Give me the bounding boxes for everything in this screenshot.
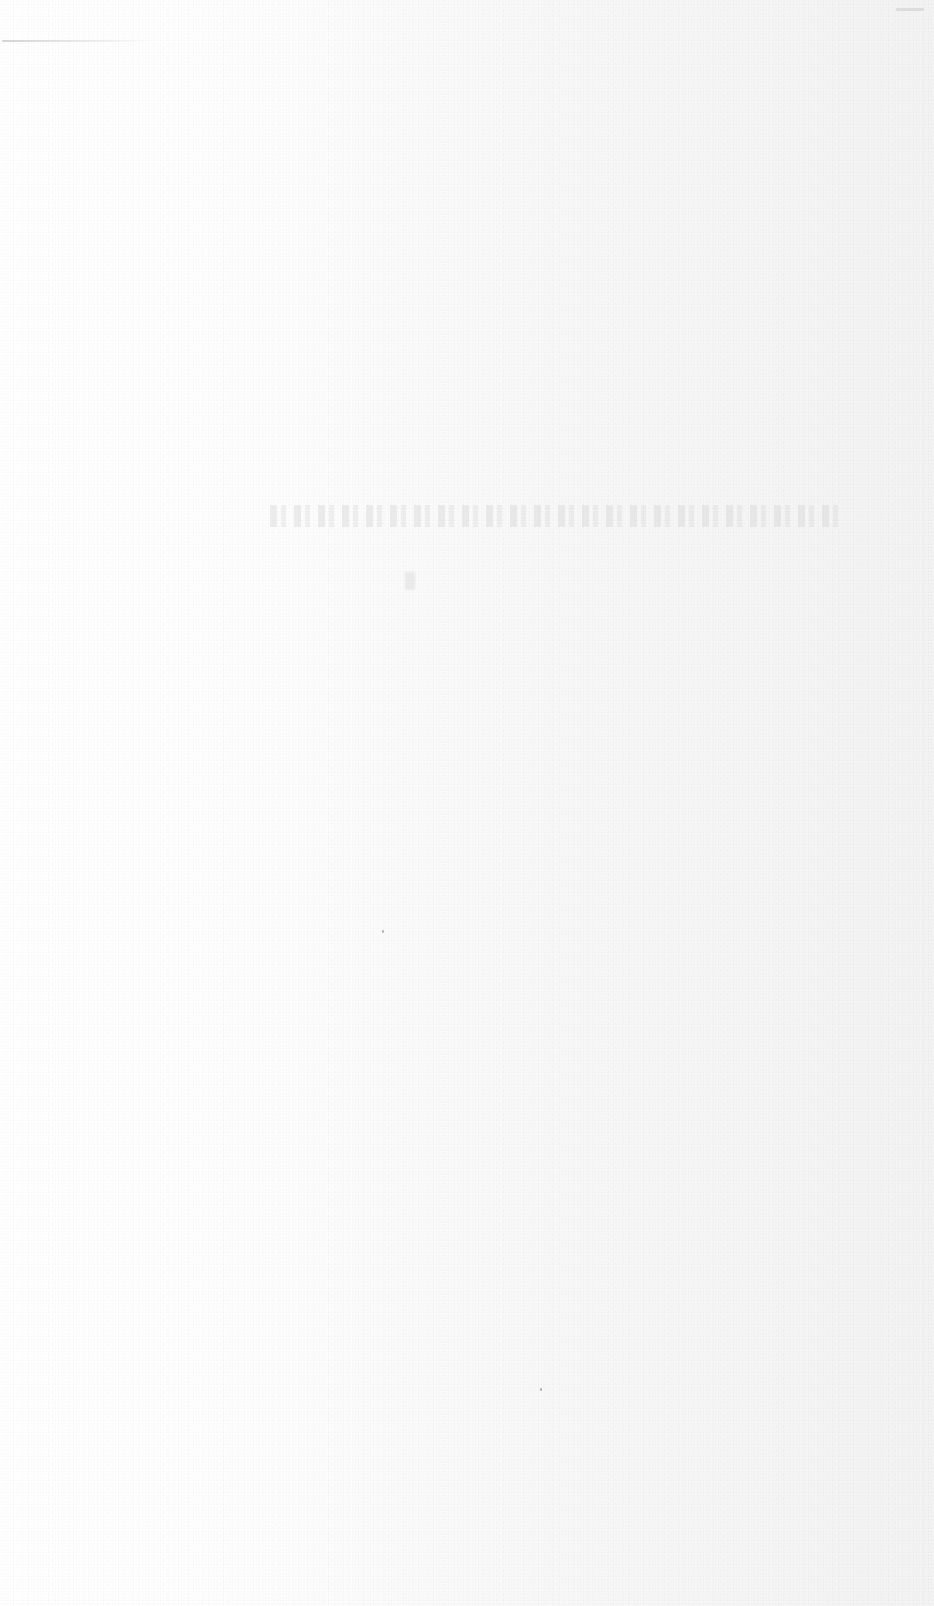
faint-illegible-text-line — [270, 505, 840, 527]
paper-speck — [540, 1388, 542, 1391]
top-left-smudge — [2, 40, 152, 42]
faint-illegible-mark — [405, 572, 415, 590]
scanned-page — [0, 0, 934, 1606]
paper-speck — [382, 930, 384, 933]
top-right-mark — [896, 8, 924, 11]
paper-texture — [0, 0, 934, 1606]
